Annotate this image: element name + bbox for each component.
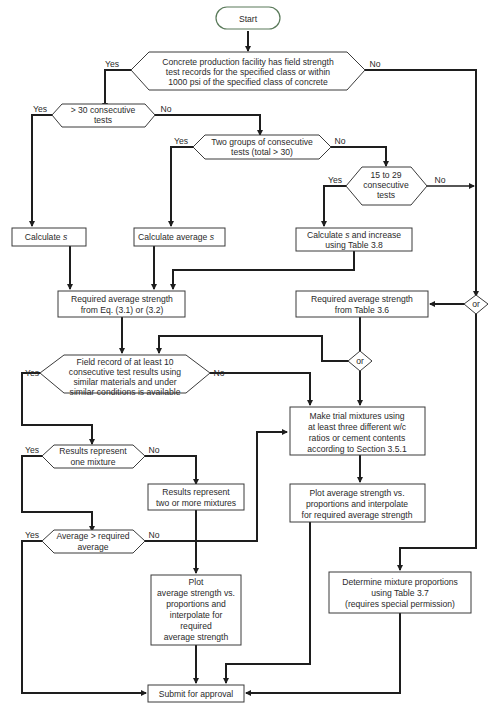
process-calculate-average-s: Calculate average s: [134, 228, 225, 246]
svg-text:from Eq. (3.1) or (3.2): from Eq. (3.1) or (3.2): [81, 305, 164, 315]
no-label: No: [370, 59, 381, 69]
svg-text:for required average strength: for required average strength: [302, 510, 413, 520]
svg-text:or: or: [356, 356, 364, 366]
yes-label: Yes: [25, 368, 39, 378]
decision-average-exceeds-required: Average > required average Yes No: [25, 530, 160, 553]
svg-text:Required average strength: Required average strength: [71, 294, 173, 304]
svg-text:Make trial mixtures using: Make trial mixtures using: [309, 411, 404, 421]
svg-text:proportions and interpolate: proportions and interpolate: [306, 499, 408, 509]
no-label: No: [335, 136, 346, 146]
svg-text:similar conditions is availabl: similar conditions is available: [70, 387, 181, 397]
decision-over-30-tests: > 30 consecutive tests Yes No: [33, 104, 172, 127]
process-determine-proportions: Determine mixture proportions using Tabl…: [329, 572, 471, 613]
decision-two-groups: Two groups of consecutive tests (total >…: [174, 135, 346, 159]
svg-text:Calculate s and increase: Calculate s and increase: [307, 230, 401, 240]
decision-field-strength-records: Concrete production facility has field s…: [105, 52, 381, 90]
svg-text:proportions and: proportions and: [166, 599, 226, 609]
svg-text:tests: tests: [94, 115, 112, 125]
svg-text:tests (total > 30): tests (total > 30): [231, 147, 293, 157]
svg-text:consecutive: consecutive: [363, 180, 409, 190]
no-label: No: [149, 445, 160, 455]
decision-one-mixture: Results represent one mixture Yes No: [25, 445, 160, 468]
no-label: No: [149, 530, 160, 540]
process-calculate-s: Calculate s: [12, 228, 86, 246]
yes-label: Yes: [33, 104, 47, 114]
yes-label: Yes: [328, 175, 342, 185]
svg-text:> 30 consecutive: > 30 consecutive: [71, 105, 136, 115]
or-junction-right: or: [464, 295, 488, 314]
process-trial-mixtures: Make trial mixtures using at least three…: [290, 407, 425, 455]
process-submit-for-approval: Submit for approval: [148, 685, 244, 702]
svg-text:Plot average strength vs.: Plot average strength vs.: [309, 488, 404, 498]
svg-text:according to Section 3.5.1: according to Section 3.5.1: [307, 444, 407, 454]
flowchart: Start Concrete production facility has f…: [0, 0, 502, 720]
svg-text:Concrete production facility h: Concrete production facility has field s…: [162, 57, 334, 67]
start-label: Start: [239, 14, 258, 24]
svg-text:Average > required: Average > required: [56, 531, 129, 541]
process-plot-left-strength: Plot average strength vs. proportions an…: [151, 575, 241, 645]
process-required-strength-table: Required average strength from Table 3.6: [296, 291, 428, 317]
svg-text:average strength vs.: average strength vs.: [157, 588, 235, 598]
svg-text:or: or: [472, 299, 480, 309]
no-label: No: [161, 104, 172, 114]
svg-text:two or more mixtures: two or more mixtures: [156, 498, 236, 508]
process-calculate-s-increase: Calculate s and increase using Table 3.8: [296, 228, 412, 251]
svg-text:consecutive test results using: consecutive test results using: [69, 367, 181, 377]
svg-text:average strength: average strength: [164, 632, 229, 642]
svg-text:using Table 3.7: using Table 3.7: [371, 588, 429, 598]
svg-text:Required average strength: Required average strength: [311, 294, 413, 304]
no-label: No: [214, 368, 225, 378]
svg-text:required: required: [180, 621, 212, 631]
svg-text:(requires special permission): (requires special permission): [345, 599, 455, 609]
svg-text:1000 psi of the specified clas: 1000 psi of the specified class of concr…: [168, 77, 328, 87]
svg-text:Calculate average s: Calculate average s: [138, 232, 215, 242]
svg-text:average: average: [77, 542, 108, 552]
svg-text:Two groups of consecutive: Two groups of consecutive: [211, 137, 313, 147]
process-two-or-more-mixtures: Results represent two or more mixtures: [148, 484, 244, 510]
svg-text:one mixture: one mixture: [71, 457, 116, 467]
no-label: No: [435, 175, 446, 185]
svg-text:Calculate s: Calculate s: [25, 232, 68, 242]
decision-field-record: Field record of at least 10 consecutive …: [25, 355, 225, 397]
svg-text:Plot: Plot: [189, 577, 204, 587]
svg-text:Results represent: Results represent: [162, 487, 230, 497]
process-required-strength-equation: Required average strength from Eq. (3.1)…: [58, 291, 185, 317]
svg-text:ratios or cement contents: ratios or cement contents: [309, 433, 406, 443]
or-junction-middle: or: [348, 351, 372, 371]
yes-label: Yes: [105, 59, 119, 69]
svg-text:Determine mixture proportions: Determine mixture proportions: [342, 577, 458, 587]
yes-label: Yes: [174, 136, 188, 146]
svg-text:from Table 3.6: from Table 3.6: [335, 305, 390, 315]
yes-label: Yes: [25, 530, 39, 540]
svg-text:Submit for approval: Submit for approval: [159, 689, 234, 699]
svg-text:Results represent: Results represent: [59, 446, 127, 456]
svg-text:test records for the specified: test records for the specified class or …: [166, 67, 331, 77]
svg-text:similar materials and under: similar materials and under: [73, 377, 176, 387]
svg-text:at least three different w/c: at least three different w/c: [308, 422, 407, 432]
svg-text:15 to 29: 15 to 29: [370, 170, 401, 180]
process-plot-trial-strength: Plot average strength vs. proportions an…: [290, 484, 425, 522]
svg-text:interpolate for: interpolate for: [170, 610, 223, 620]
svg-text:using Table 3.8: using Table 3.8: [325, 240, 383, 250]
svg-text:tests: tests: [377, 190, 395, 200]
svg-text:Field record of at least 10: Field record of at least 10: [77, 357, 174, 367]
start-terminal: Start: [216, 7, 280, 29]
yes-label: Yes: [25, 445, 39, 455]
